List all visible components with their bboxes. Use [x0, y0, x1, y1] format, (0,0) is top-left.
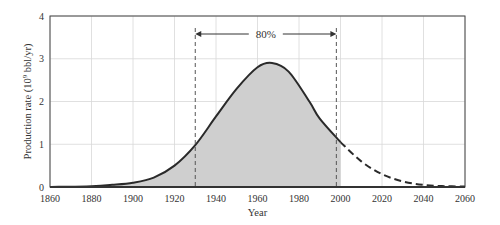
y-axis-label: Production rate (109 bbl/yr): [21, 43, 34, 159]
x-tick-label: 1860: [40, 193, 60, 204]
arrowhead-left-icon: [195, 31, 201, 37]
x-tick-label: 2020: [372, 193, 392, 204]
x-tick-label: 1920: [165, 193, 185, 204]
x-tick-label: 2060: [455, 193, 475, 204]
arrowhead-right-icon: [330, 31, 336, 37]
annotation-80-percent: 80%: [256, 28, 276, 40]
x-tick-label: 2040: [414, 193, 434, 204]
y-axis-label-suffix: bbl/yr): [22, 43, 34, 75]
x-tick-label: 1960: [248, 193, 268, 204]
y-tick-label: 3: [39, 53, 44, 64]
eighty-percent-annotation: 80%: [195, 28, 336, 40]
x-axis-ticks: 1860188019001920194019601980200020202040…: [40, 193, 475, 204]
x-tick-label: 1900: [123, 193, 143, 204]
y-tick-label: 1: [39, 139, 44, 150]
x-tick-label: 2000: [331, 193, 351, 204]
hubbert-curve-chart: 1860188019001920194019601980200020202040…: [0, 0, 500, 225]
x-tick-label: 1940: [206, 193, 226, 204]
x-tick-label: 1980: [289, 193, 309, 204]
y-axis-label-prefix: Production rate (10: [22, 78, 34, 159]
projected-production-curve: [341, 142, 466, 186]
y-tick-label: 4: [39, 11, 44, 22]
x-axis-label: Year: [248, 207, 268, 218]
x-tick-label: 1880: [82, 193, 102, 204]
y-tick-label: 0: [39, 182, 44, 193]
y-axis-ticks: 01234: [39, 11, 44, 193]
y-tick-label: 2: [39, 96, 44, 107]
